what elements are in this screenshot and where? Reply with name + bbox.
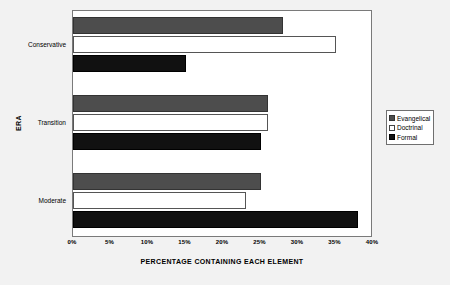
chart-legend: EvangelicalDoctrinalFormal: [386, 110, 434, 145]
bar-conservative-formal: [73, 55, 186, 72]
legend-label: Formal: [397, 133, 417, 142]
bar-conservative-doctrinal: [73, 36, 336, 53]
x-axis-tick-30: 30%: [291, 239, 304, 245]
chart-figure: ConservativeTransitionModerate ERA 0%5%1…: [0, 0, 450, 285]
legend-item-formal[interactable]: Formal: [389, 133, 430, 142]
legend-swatch-icon-formal: [389, 134, 395, 140]
bar-moderate-formal: [73, 211, 358, 228]
bar-transition-formal: [73, 133, 261, 150]
plot-area: [72, 10, 372, 237]
y-axis-title: ERA: [15, 115, 22, 131]
legend-label: Doctrinal: [397, 123, 423, 132]
x-axis-tick-5: 5%: [105, 239, 114, 245]
x-axis-tick-25: 25%: [253, 239, 266, 245]
legend-item-evangelical[interactable]: Evangelical: [389, 114, 430, 123]
y-axis-tick-labels: ConservativeTransitionModerate: [14, 10, 70, 237]
x-axis-tick-20: 20%: [216, 239, 229, 245]
bar-group-moderate: [73, 172, 371, 232]
legend-swatch-icon-evangelical: [389, 115, 395, 121]
y-axis-tick-conservative: Conservative: [28, 41, 66, 48]
legend-item-doctrinal[interactable]: Doctrinal: [389, 123, 430, 132]
x-axis-tick-40: 40%: [366, 239, 379, 245]
bar-transition-doctrinal: [73, 114, 268, 131]
y-axis-tick-moderate: Moderate: [39, 197, 66, 204]
bar-moderate-evangelical: [73, 173, 261, 190]
x-axis-title: PERCENTAGE CONTAINING EACH ELEMENT: [72, 258, 372, 265]
bar-moderate-doctrinal: [73, 192, 246, 209]
bar-group-transition: [73, 94, 371, 154]
bars-layer: [73, 11, 371, 236]
x-axis-tick-labels: 0%5%10%15%20%25%30%35%40%: [72, 239, 372, 253]
bar-transition-evangelical: [73, 95, 268, 112]
x-axis-tick-35: 35%: [328, 239, 341, 245]
legend-swatch-icon-doctrinal: [389, 125, 395, 131]
legend-label: Evangelical: [397, 114, 430, 123]
bar-group-conservative: [73, 16, 371, 76]
x-axis-tick-10: 10%: [141, 239, 154, 245]
bar-conservative-evangelical: [73, 17, 283, 34]
x-axis-tick-0: 0%: [67, 239, 76, 245]
y-axis-tick-transition: Transition: [38, 119, 66, 126]
x-axis-tick-15: 15%: [178, 239, 191, 245]
